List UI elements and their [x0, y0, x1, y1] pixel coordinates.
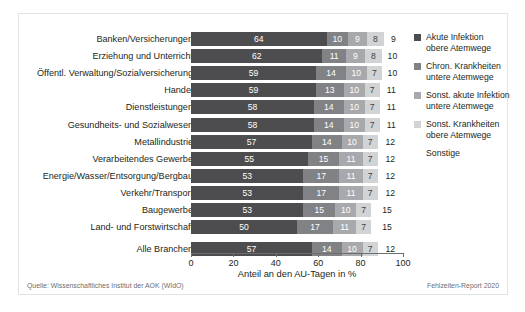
category-label: Verkehr/Transport — [0, 186, 193, 200]
segment-value: 62 — [191, 49, 322, 63]
axis-tick-label: 20 — [218, 258, 248, 268]
legend-item[interactable]: Chron. Krankheitenuntere Atemwege — [414, 61, 514, 82]
bar-segment: 62 — [191, 49, 322, 63]
bar-segment: 11 — [322, 49, 345, 63]
bar-segment: 15 — [303, 203, 335, 217]
stacked-bar: 5714107 — [191, 242, 378, 256]
segment-value: 8 — [365, 49, 382, 63]
bar-segment: 55 — [191, 152, 308, 166]
outer-segment-value: 10 — [381, 66, 403, 80]
segment-value: 53 — [191, 203, 303, 217]
segment-value: 7 — [363, 242, 378, 256]
outer-segment-value: 12 — [379, 186, 401, 200]
stacked-bar: 5317117 — [191, 186, 378, 200]
segment-value: 57 — [191, 135, 312, 149]
legend-item[interactable]: Sonstige — [414, 148, 514, 159]
bar-segment: 10 — [335, 203, 356, 217]
axis-tick — [318, 253, 319, 257]
axis-tick — [233, 253, 234, 257]
segment-value: 64 — [191, 32, 327, 46]
segment-value: 7 — [363, 186, 378, 200]
bar-segment: 53 — [191, 169, 303, 183]
stacked-bar: 5914107 — [191, 66, 382, 80]
bar-segment: 14 — [316, 66, 346, 80]
bar-segment: 11 — [339, 186, 362, 200]
segment-value: 7 — [365, 83, 380, 97]
legend-item[interactable]: Sonst. akute Infektionuntere Atemwege — [414, 90, 514, 111]
bar-segment: 7 — [365, 83, 380, 97]
segment-value: 10 — [344, 100, 365, 114]
stacked-bar: 5515117 — [191, 152, 378, 166]
source-note: Quelle: Wissenschaftliches Institut der … — [27, 282, 184, 289]
chart-row: Verkehr/Transport531711712 — [19, 186, 507, 200]
axis-tick — [276, 253, 277, 257]
bar-segment: 7 — [367, 66, 382, 80]
category-label: Erziehung und Unterricht — [0, 49, 193, 63]
category-label: Alle Branchen — [0, 242, 193, 256]
axis-tick-label: 80 — [346, 258, 376, 268]
bar-segment: 14 — [314, 118, 344, 132]
chart-row: Energie/Wasser/Entsorgung/Bergbau5317117… — [19, 169, 507, 183]
segment-value: 7 — [367, 66, 382, 80]
legend-swatch-icon — [414, 63, 421, 70]
bar-segment: 10 — [342, 135, 363, 149]
legend-swatch-icon — [414, 150, 421, 157]
bar-segment: 7 — [363, 169, 378, 183]
category-label: Dienstleistungen — [0, 100, 193, 114]
bar-segment: 10 — [344, 83, 365, 97]
segment-value: 17 — [303, 186, 339, 200]
outer-segment-value: 15 — [376, 220, 398, 234]
legend-label-line1: Sonstige — [426, 148, 514, 159]
bar-segment: 10 — [344, 118, 365, 132]
segment-value: 11 — [339, 186, 362, 200]
segment-value: 17 — [303, 169, 339, 183]
legend-swatch-icon — [414, 34, 421, 41]
segment-value: 7 — [356, 203, 371, 217]
segment-value: 15 — [303, 203, 335, 217]
axis-tick-label: 40 — [261, 258, 291, 268]
outer-segment-value: 12 — [379, 152, 401, 166]
stacked-bar: 621198 — [191, 49, 382, 63]
bar-segment: 15 — [308, 152, 340, 166]
stacked-bar: 5714107 — [191, 135, 378, 149]
bar-segment: 17 — [303, 186, 339, 200]
segment-value: 7 — [363, 169, 378, 183]
segment-value: 10 — [344, 118, 365, 132]
bar-segment: 64 — [191, 32, 327, 46]
segment-value: 57 — [191, 242, 312, 256]
category-label: Energie/Wasser/Entsorgung/Bergbau — [0, 169, 193, 183]
bar-segment: 7 — [363, 242, 378, 256]
legend-label-line2: obere Atemwege — [426, 130, 514, 141]
stacked-bar: 641098 — [191, 32, 384, 46]
segment-value: 7 — [363, 152, 378, 166]
bar-segment: 7 — [363, 186, 378, 200]
bar-segment: 58 — [191, 100, 314, 114]
axis-tick — [191, 253, 192, 257]
bar-segment: 17 — [297, 220, 333, 234]
legend-item[interactable]: Akute Infektionobere Atemwege — [414, 32, 514, 53]
outer-segment-value: 12 — [379, 169, 401, 183]
bar-segment: 59 — [191, 66, 316, 80]
segment-value: 59 — [191, 83, 316, 97]
segment-value: 14 — [314, 100, 344, 114]
segment-value: 11 — [322, 49, 345, 63]
axis-tick — [403, 253, 404, 257]
category-label: Metallindustrie — [0, 135, 193, 149]
bar-segment: 11 — [339, 152, 362, 166]
stacked-bar: 5814107 — [191, 100, 380, 114]
category-label: Land- und Forstwirtschaft — [0, 220, 193, 234]
legend-label-line2: obere Atemwege — [426, 43, 514, 54]
bar-segment: 7 — [365, 118, 380, 132]
axis-tick-label: 0 — [176, 258, 206, 268]
segment-value: 9 — [346, 49, 365, 63]
bar-segment: 14 — [312, 242, 342, 256]
bar-segment: 9 — [346, 49, 365, 63]
report-note: Fehlzeiten-Report 2020 — [427, 282, 499, 289]
chart-figure: Banken/Versicherungen6410989Erziehung un… — [18, 13, 508, 295]
outer-segment-value: 10 — [381, 49, 403, 63]
x-axis — [191, 253, 403, 254]
chart-row: Land- und Forstwirtschaft501711715 — [19, 220, 507, 234]
segment-value: 53 — [191, 186, 303, 200]
legend-item[interactable]: Sonst. Krankheitenobere Atemwege — [414, 119, 514, 140]
stacked-bar: 5913107 — [191, 83, 380, 97]
